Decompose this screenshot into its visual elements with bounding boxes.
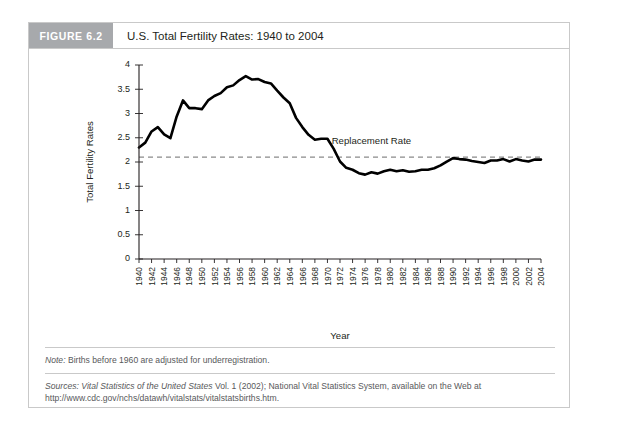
note-text: Births before 1960 are adjusted for unde…: [66, 355, 270, 365]
x-tick-label: 1946: [172, 267, 182, 286]
chart-area: 00.511.522.533.54 1940194219441946194819…: [29, 49, 571, 345]
x-tick-label: 1984: [411, 267, 421, 286]
x-tick-label: 1952: [210, 267, 220, 286]
y-tick-label: 2.5: [117, 132, 130, 142]
y-tick-label: 1: [125, 205, 130, 215]
x-tick-label: 1976: [360, 267, 370, 286]
x-tick-label: 1964: [285, 267, 295, 286]
figure-container: FIGURE 6.2 U.S. Total Fertility Rates: 1…: [28, 22, 570, 408]
x-tick-label: 1958: [247, 267, 257, 286]
x-tick-label: 1988: [436, 267, 446, 286]
x-tick-label: 1944: [159, 267, 169, 286]
x-tick-label: 1980: [385, 267, 395, 286]
x-tick-label: 1968: [310, 267, 320, 286]
figure-number-badge: FIGURE 6.2: [29, 23, 113, 48]
x-tick-label: 1986: [423, 267, 433, 286]
x-tick-label: 1962: [272, 267, 282, 286]
y-axis-tick-labels: 00.511.522.533.54: [117, 59, 130, 263]
fertility-rate-series-line: [139, 76, 541, 174]
sources-citation-title: Vital Statistics of the United States: [79, 381, 213, 391]
replacement-rate-annotation: Replacement Rate: [332, 135, 411, 146]
y-axis-title: Total Fertility Rates: [84, 121, 95, 203]
sources-label: Sources:: [45, 381, 79, 391]
x-tick-label: 1978: [373, 267, 383, 286]
y-tick-label: 2: [125, 156, 130, 166]
x-tick-label: 1990: [448, 267, 458, 286]
x-tick-label: 1996: [486, 267, 496, 286]
x-tick-label: 1970: [323, 267, 333, 286]
x-tick-label: 1982: [398, 267, 408, 286]
axis-ticks: [135, 65, 541, 263]
x-tick-label: 1942: [147, 267, 157, 286]
x-tick-label: 1972: [335, 267, 345, 286]
figure-sources: Sources: Vital Statistics of the United …: [45, 380, 561, 404]
x-tick-label: 1948: [184, 267, 194, 286]
x-tick-label: 1966: [298, 267, 308, 286]
x-axis-tick-labels: 1940194219441946194819501952195419561958…: [134, 267, 546, 286]
y-tick-label: 4: [125, 59, 130, 69]
x-tick-label: 2000: [511, 267, 521, 286]
figure-note: Note: Births before 1960 are adjusted fo…: [45, 354, 557, 366]
x-tick-label: 1960: [260, 267, 270, 286]
x-tick-label: 1992: [461, 267, 471, 286]
x-tick-label: 1956: [235, 267, 245, 286]
x-tick-label: 1950: [197, 267, 207, 286]
x-tick-label: 2002: [524, 267, 534, 286]
x-tick-label: 1994: [473, 267, 483, 286]
y-tick-label: 0: [125, 253, 130, 263]
x-tick-label: 1954: [222, 267, 232, 286]
x-tick-label: 1974: [348, 267, 358, 286]
x-axis-title: Year: [330, 330, 350, 341]
sources-divider: [45, 373, 555, 374]
figure-title: U.S. Total Fertility Rates: 1940 to 2004: [113, 23, 569, 48]
x-tick-label: 1998: [499, 267, 509, 286]
fertility-rate-line-chart: 00.511.522.533.54 1940194219441946194819…: [29, 49, 571, 345]
y-tick-label: 3.5: [117, 84, 130, 94]
note-divider: [45, 347, 555, 348]
x-tick-label: 2004: [536, 267, 546, 286]
note-label: Note:: [45, 355, 66, 365]
y-tick-label: 1.5: [117, 181, 130, 191]
y-tick-label: 0.5: [117, 229, 130, 239]
x-tick-label: 1940: [134, 267, 144, 286]
y-tick-label: 3: [125, 108, 130, 118]
figure-header: FIGURE 6.2 U.S. Total Fertility Rates: 1…: [29, 23, 569, 48]
